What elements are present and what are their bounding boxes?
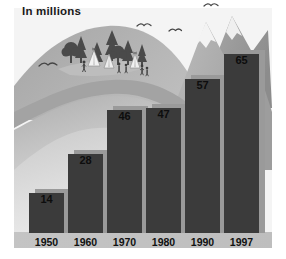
bar-value-1997: 65 xyxy=(224,54,259,66)
bar-group-1980 xyxy=(146,104,187,239)
bar-value-1970: 46 xyxy=(107,110,142,122)
bar-value-1980: 47 xyxy=(146,108,181,120)
bar-group-1990 xyxy=(185,75,226,239)
x-axis-label-1950: 1950 xyxy=(26,236,67,248)
bar-1990[interactable] xyxy=(185,79,220,233)
bar-group-1997 xyxy=(224,50,265,239)
x-axis-label-1997: 1997 xyxy=(221,236,262,248)
bar-value-1990: 57 xyxy=(185,79,220,91)
x-axis-label-1980: 1980 xyxy=(143,236,184,248)
x-axis-label-1960: 1960 xyxy=(65,236,106,248)
bar-1970[interactable] xyxy=(107,110,142,233)
x-axis-label-1970: 1970 xyxy=(104,236,145,248)
bar-1997[interactable] xyxy=(224,54,259,233)
bar-1980[interactable] xyxy=(146,108,181,233)
x-axis-label-1990: 1990 xyxy=(182,236,223,248)
bar-value-1950: 14 xyxy=(29,193,64,205)
page-title: In millions xyxy=(22,5,81,17)
bar-value-1960: 28 xyxy=(68,154,103,166)
bar-group-1970 xyxy=(107,106,148,239)
chart-figure: In millions 14 28 46 47 57 65 1950 1960 … xyxy=(0,0,286,259)
